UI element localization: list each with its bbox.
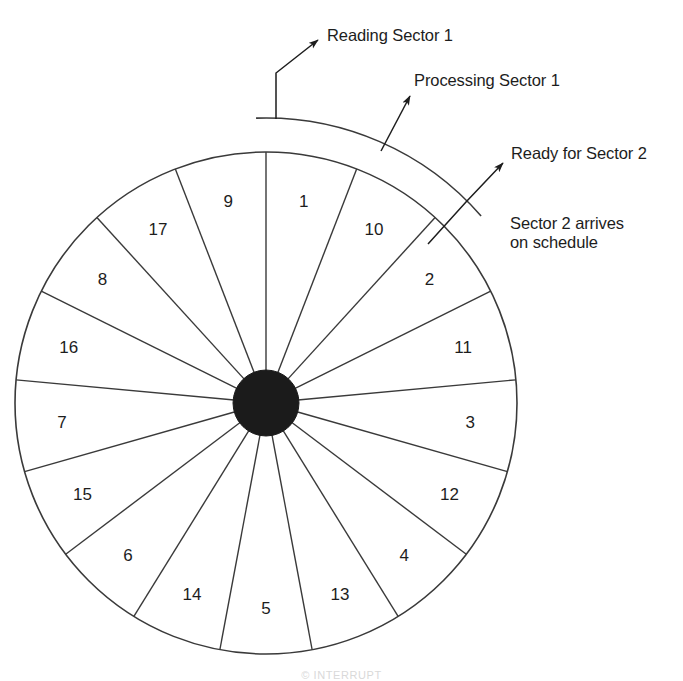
sector-number: 16 bbox=[59, 338, 78, 357]
sector-number: 2 bbox=[425, 270, 434, 289]
disk-platter: 1102113124135146157168179 bbox=[15, 152, 517, 654]
sector-number: 17 bbox=[149, 220, 168, 239]
sector-number: 3 bbox=[465, 413, 474, 432]
annotation-processing-sector-1: Processing Sector 1 bbox=[414, 71, 560, 90]
sector-number: 8 bbox=[98, 270, 107, 289]
disk-hub bbox=[233, 370, 299, 436]
sector-number: 14 bbox=[182, 585, 201, 604]
sector-number: 1 bbox=[299, 192, 308, 211]
sector-number: 7 bbox=[57, 413, 66, 432]
sector-number: 11 bbox=[454, 338, 472, 357]
sector-number: 5 bbox=[261, 599, 270, 618]
disk-sector-diagram: 1102113124135146157168179 bbox=[0, 0, 683, 681]
sector-number: 10 bbox=[364, 220, 383, 239]
figure-caption: © INTERRUPT bbox=[0, 669, 683, 681]
annotation-reading-sector-1: Reading Sector 1 bbox=[327, 26, 453, 45]
processing-leader-line bbox=[381, 96, 410, 151]
sector-number: 4 bbox=[399, 546, 408, 565]
reading-leader-line bbox=[276, 40, 318, 119]
annotation-ready-for-sector-2: Ready for Sector 2 bbox=[511, 144, 647, 163]
annotation-sector-2-arrives-on-schedule: Sector 2 arrives on schedule bbox=[510, 214, 624, 252]
sector-number: 6 bbox=[123, 546, 132, 565]
sector-number: 12 bbox=[440, 485, 459, 504]
ready-leader-line bbox=[428, 163, 503, 244]
sector-number: 9 bbox=[224, 192, 233, 211]
sector-number: 13 bbox=[331, 585, 350, 604]
sector-number: 15 bbox=[73, 485, 92, 504]
